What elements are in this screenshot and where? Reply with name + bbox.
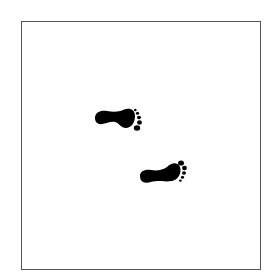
footprint-icon (93, 106, 145, 132)
footprint-icon (138, 160, 190, 186)
picture-frame (21, 21, 261, 270)
